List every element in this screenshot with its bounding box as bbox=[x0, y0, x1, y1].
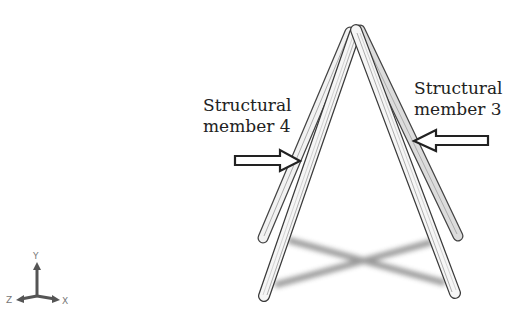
structural-member-3-label: Structural member 3 bbox=[414, 78, 503, 120]
a-frame-structure-diagram: Y Z X bbox=[0, 0, 525, 323]
structural-member-front-right bbox=[356, 30, 456, 293]
structural-member-4-label: Structural member 4 bbox=[203, 95, 292, 137]
label-line-2: member 4 bbox=[203, 116, 292, 137]
axis-z-label: Z bbox=[6, 295, 12, 305]
arrow-left-icon bbox=[414, 130, 488, 151]
axis-y-label: Y bbox=[32, 251, 39, 261]
label-line-1: Structural bbox=[203, 95, 292, 116]
label-line-1: Structural bbox=[414, 78, 503, 99]
axis-triad-icon: Y Z X bbox=[6, 251, 68, 306]
ground-shadow bbox=[275, 240, 445, 285]
structural-member-3 bbox=[360, 30, 458, 236]
label-line-2: member 3 bbox=[414, 99, 503, 120]
axis-x-label: X bbox=[62, 296, 68, 306]
